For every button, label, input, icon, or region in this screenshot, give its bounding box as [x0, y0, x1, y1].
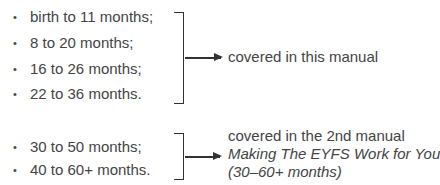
note-second-manual-title: Making The EYFS Work for You: [228, 145, 440, 163]
list-item-text: 16 to 26 months;: [30, 60, 142, 77]
bullet-icon: •: [13, 8, 30, 26]
bullet-icon: •: [13, 161, 30, 179]
list-item: •birth to 11 months;: [13, 8, 153, 26]
list-item: •16 to 26 months;: [13, 60, 142, 78]
list-item-text: birth to 11 months;: [30, 8, 153, 25]
list-item-text: 8 to 20 months;: [30, 34, 133, 51]
bracket-2: [174, 133, 184, 180]
bracket-1: [174, 12, 184, 104]
bullet-icon: •: [13, 85, 30, 103]
list-item-text: 30 to 50 months;: [30, 138, 142, 155]
list-item: •40 to 60+ months.: [13, 161, 151, 179]
list-item-text: 22 to 36 months.: [30, 85, 142, 102]
bullet-icon: •: [13, 34, 30, 52]
bullet-icon: •: [13, 138, 30, 156]
note-covered-this-manual: covered in this manual: [228, 48, 378, 66]
note-second-manual-range: (30–60+ months): [228, 163, 342, 181]
list-item: •22 to 36 months.: [13, 85, 142, 103]
list-item: •8 to 20 months;: [13, 34, 133, 52]
arrow-right-icon: [185, 156, 220, 158]
arrow-right-icon: [185, 57, 221, 59]
note-second-manual-line1: covered in the 2nd manual: [228, 127, 405, 145]
list-item: •30 to 50 months;: [13, 138, 142, 156]
list-item-text: 40 to 60+ months.: [30, 161, 151, 178]
bullet-icon: •: [13, 60, 30, 78]
